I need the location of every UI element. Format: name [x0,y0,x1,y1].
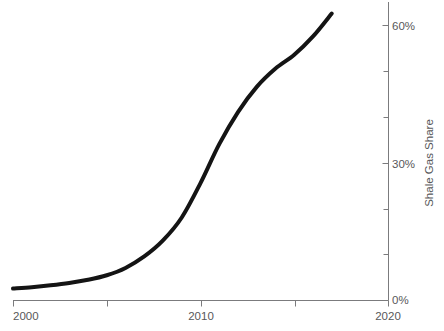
chart-background [0,0,444,331]
chart-container: 2000 2010 2020 0% 30% 60% Shale Gas Shar… [0,0,444,331]
x-axis-label-2020: 2020 [375,310,401,322]
x-axis-label-2010: 2010 [188,310,214,322]
y-axis-title: Shale Gas Share [423,119,435,207]
y-axis-label-60: 60% [392,20,415,32]
x-axis-label-2000: 2000 [13,310,39,322]
shale-gas-share-line-chart: 2000 2010 2020 0% 30% 60% Shale Gas Shar… [0,0,444,331]
y-axis-label-30: 30% [392,158,415,170]
y-axis-label-0: 0% [392,294,409,306]
